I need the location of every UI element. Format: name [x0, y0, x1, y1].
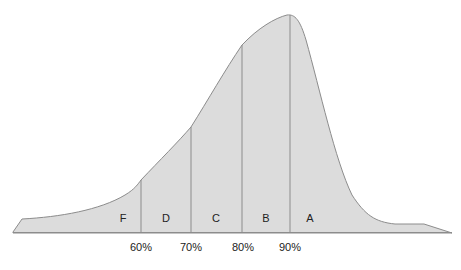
tick-label-70: 70%	[180, 241, 202, 253]
grade-label-d: D	[162, 212, 170, 224]
distribution-curve	[13, 15, 452, 233]
tick-label-90: 90%	[279, 241, 301, 253]
grade-distribution-chart: F D C B A 60% 70% 80% 90%	[0, 0, 461, 270]
grade-label-f: F	[120, 212, 127, 224]
grade-label-a: A	[306, 212, 314, 224]
grade-label-c: C	[212, 212, 220, 224]
grade-label-b: B	[262, 212, 269, 224]
tick-label-60: 60%	[130, 241, 152, 253]
tick-label-80: 80%	[232, 241, 254, 253]
